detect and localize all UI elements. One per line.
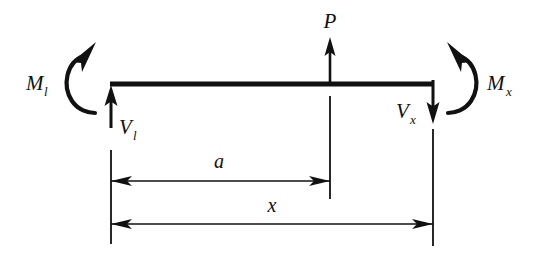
left-moment-curved-arrow — [67, 42, 96, 113]
label-right-moment-symbol: M — [486, 71, 506, 95]
left-moment-arc — [67, 56, 95, 113]
free-body-diagram: P M l M x V l V x a x — [0, 0, 537, 264]
label-left-moment: M l — [25, 71, 48, 99]
left-moment-arrowhead — [72, 42, 96, 72]
label-left-shear-subscript: l — [133, 128, 137, 143]
label-dimension-x: x — [267, 194, 277, 216]
applied-load-P-arrow — [325, 37, 336, 84]
label-left-shear: V l — [119, 115, 137, 143]
label-right-shear-symbol: V — [396, 99, 411, 123]
label-left-shear-symbol: V — [119, 115, 134, 139]
right-shear-arrow — [427, 80, 440, 124]
label-dimension-a: a — [214, 150, 224, 172]
right-moment-arrowhead — [447, 42, 471, 72]
label-right-moment: M x — [486, 71, 512, 99]
dimension-a — [111, 176, 330, 186]
label-left-moment-subscript: l — [44, 84, 48, 99]
label-applied-load-P: P — [323, 9, 337, 33]
label-right-shear-subscript: x — [409, 112, 416, 127]
label-left-moment-symbol: M — [25, 71, 45, 95]
diagram-canvas: P M l M x V l V x a x — [0, 0, 537, 264]
right-moment-curved-arrow — [447, 42, 476, 113]
right-moment-arc — [448, 56, 476, 113]
label-right-shear: V x — [396, 99, 416, 127]
left-shear-arrow — [105, 85, 118, 128]
label-right-moment-subscript: x — [505, 84, 512, 99]
dimension-x — [111, 219, 433, 229]
